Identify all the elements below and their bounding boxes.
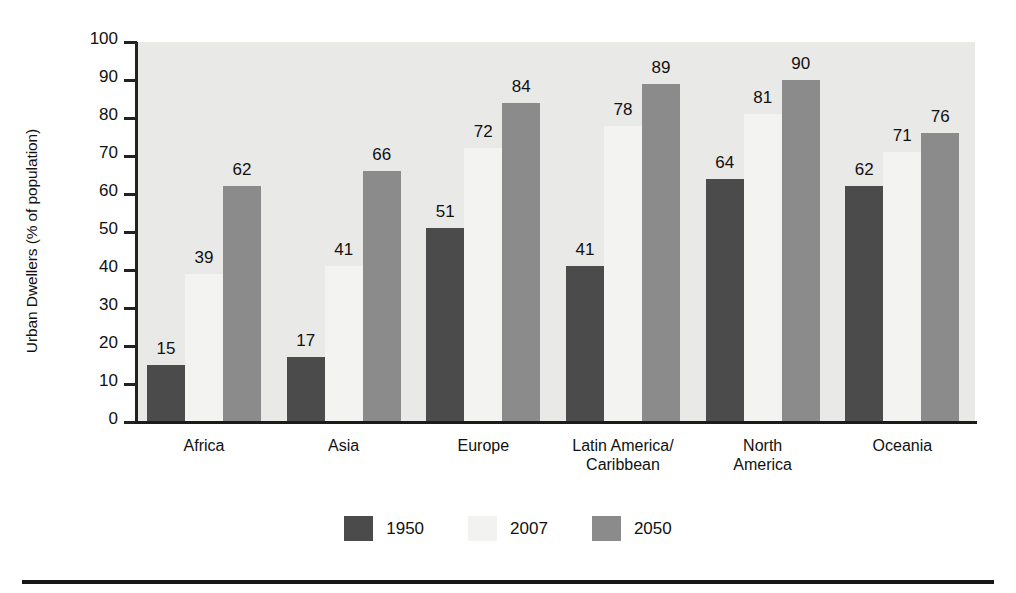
bar-group: 627176: [845, 42, 959, 422]
bar[interactable]: 81: [744, 114, 782, 422]
bar-value-label: 71: [893, 127, 912, 144]
bar[interactable]: 62: [223, 186, 261, 422]
legend-label: 2050: [634, 519, 672, 539]
bar-group: 153962: [147, 42, 261, 422]
bar[interactable]: 51: [426, 228, 464, 422]
bar-chart-figure: Urban Dwellers (% of population) 1009080…: [0, 0, 1016, 593]
y-axis-tick-label: 100: [90, 30, 118, 47]
bar[interactable]: 41: [566, 266, 604, 422]
bar[interactable]: 66: [363, 171, 401, 422]
x-axis-category-label: Oceania: [802, 436, 1002, 455]
y-axis-tick-label: 0: [109, 410, 118, 427]
bar[interactable]: 17: [287, 357, 325, 422]
bar-value-label: 90: [791, 55, 810, 72]
bar[interactable]: 71: [883, 152, 921, 422]
bar-value-label: 84: [512, 78, 531, 95]
legend-item[interactable]: 1950: [344, 516, 424, 541]
y-axis-tick-label: 10: [99, 372, 118, 389]
legend-label: 2007: [510, 519, 548, 539]
plot-area: 153962174166517284417889648190627176: [137, 42, 975, 422]
bar[interactable]: 84: [502, 103, 540, 422]
bar[interactable]: 78: [604, 126, 642, 422]
bar-value-label: 15: [157, 340, 176, 357]
bar-value-label: 64: [715, 154, 734, 171]
y-axis-title: Urban Dwellers (% of population): [23, 41, 41, 441]
y-axis-tick-label: 50: [99, 220, 118, 237]
bar[interactable]: 41: [325, 266, 363, 422]
bar[interactable]: 76: [921, 133, 959, 422]
y-axis-tick-label: 20: [99, 334, 118, 351]
bar-value-label: 89: [652, 59, 671, 76]
y-axis-tick-label: 70: [99, 144, 118, 161]
bar-group: 648190: [706, 42, 820, 422]
bar[interactable]: 90: [782, 80, 820, 422]
bar-value-label: 72: [474, 123, 493, 140]
bar-value-label: 76: [931, 108, 950, 125]
y-axis-tick-label: 80: [99, 106, 118, 123]
bar[interactable]: 64: [706, 179, 744, 422]
bottom-divider-rule: [22, 580, 994, 584]
bar-value-label: 78: [614, 101, 633, 118]
legend-item[interactable]: 2050: [592, 516, 672, 541]
bar-value-label: 41: [576, 241, 595, 258]
bar-group: 417889: [566, 42, 680, 422]
bar-value-label: 41: [334, 241, 353, 258]
chart-legend: 195020072050: [0, 516, 1016, 541]
bar-value-label: 66: [372, 146, 391, 163]
bar[interactable]: 15: [147, 365, 185, 422]
bar-value-label: 62: [855, 161, 874, 178]
y-axis-tick-label: 60: [99, 182, 118, 199]
bar-group: 174166: [287, 42, 401, 422]
bar-value-label: 39: [195, 249, 214, 266]
bar[interactable]: 89: [642, 84, 680, 422]
bar[interactable]: 39: [185, 274, 223, 422]
y-axis-tick-label: 30: [99, 296, 118, 313]
y-axis-line: [135, 42, 138, 423]
bar-value-label: 62: [233, 161, 252, 178]
x-axis-line: [135, 421, 977, 424]
bar-value-label: 17: [296, 332, 315, 349]
bar[interactable]: 72: [464, 148, 502, 422]
legend-label: 1950: [386, 519, 424, 539]
legend-color-swatch: [592, 516, 621, 541]
legend-color-swatch: [468, 516, 497, 541]
legend-color-swatch: [344, 516, 373, 541]
bar[interactable]: 62: [845, 186, 883, 422]
y-axis-tick-label: 40: [99, 258, 118, 275]
bar-value-label: 51: [436, 203, 455, 220]
y-axis-tick-label: 90: [99, 68, 118, 85]
bar-value-label: 81: [753, 89, 772, 106]
bar-group: 517284: [426, 42, 540, 422]
legend-item[interactable]: 2007: [468, 516, 548, 541]
